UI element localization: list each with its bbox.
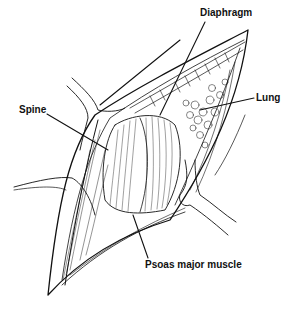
label-spine: Spine [19,105,46,115]
incision-outline [48,30,248,295]
leader-lung [200,98,254,110]
label-psoas-major-muscle: Psoas major muscle [145,260,242,270]
leader-spine [47,114,108,150]
label-lung: Lung [256,93,280,103]
label-diaphragm: Diaphragm [200,8,252,18]
leader-psoas [133,215,148,258]
leader-lines [47,22,254,258]
retractor-upper-left [72,78,125,111]
